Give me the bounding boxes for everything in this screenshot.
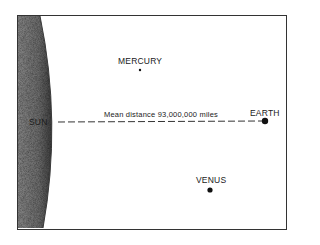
sun-label: SUN <box>29 117 48 127</box>
mercury-dot <box>139 69 141 71</box>
venus-label: VENUS <box>196 175 226 185</box>
distance-dashed-line <box>58 121 264 122</box>
mercury-label: MERCURY <box>118 56 162 66</box>
earth-label: EARTH <box>250 108 280 118</box>
distance-label: Mean distance 93,000,000 miles <box>104 110 218 119</box>
earth-dot <box>262 118 268 124</box>
venus-dot <box>207 187 212 192</box>
